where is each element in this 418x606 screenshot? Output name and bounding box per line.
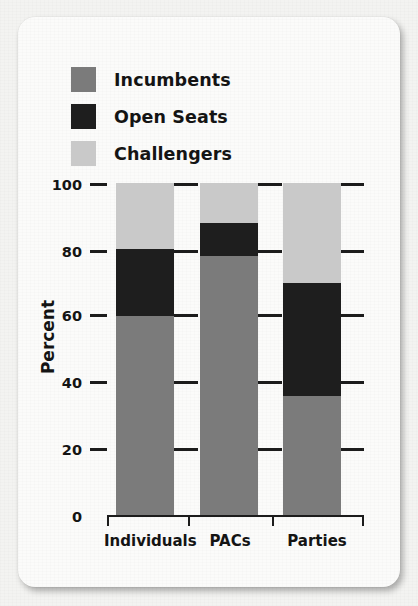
y-tick-label-20: 20 — [34, 442, 82, 458]
bar-parties[interactable] — [283, 183, 341, 515]
gridline-100-right — [341, 183, 364, 186]
x-tick-1 — [188, 515, 190, 526]
y-tick-mark-100 — [90, 183, 107, 186]
chart-card: Incumbents Open Seats Challengers Percen… — [18, 17, 400, 587]
x-axis-label-parties: Parties — [272, 532, 362, 550]
chart-card-surface: Incumbents Open Seats Challengers Percen… — [18, 17, 400, 587]
gridline-100-gap2 — [258, 183, 282, 186]
gridline-80-gap2 — [258, 250, 282, 253]
y-tick-label-60: 60 — [34, 308, 82, 324]
gridline-60-gap2 — [258, 314, 282, 317]
y-tick-label-80: 80 — [34, 244, 82, 260]
chart-page: Incumbents Open Seats Challengers Percen… — [0, 0, 418, 606]
x-tick-left — [107, 515, 109, 526]
bar-individuals-segment-incumbents[interactable] — [116, 316, 174, 515]
gridline-20-right — [341, 448, 364, 451]
gridline-80-right — [341, 250, 364, 253]
plot-area: Percent 100 80 60 40 20 0 — [18, 17, 400, 587]
y-tick-mark-20 — [90, 448, 107, 451]
x-tick-right — [362, 515, 364, 526]
bar-individuals[interactable] — [116, 183, 174, 515]
bar-individuals-segment-challengers[interactable] — [116, 183, 174, 249]
gridline-40-right — [341, 381, 364, 384]
gridline-20-gap2 — [258, 448, 282, 451]
bar-pacs-segment-incumbents[interactable] — [200, 256, 258, 515]
bar-parties-segment-incumbents[interactable] — [283, 396, 341, 515]
bar-pacs-segment-challengers[interactable] — [200, 183, 258, 223]
gridline-60-right — [341, 314, 364, 317]
bar-individuals-segment-open-seats[interactable] — [116, 249, 174, 316]
x-axis-line — [107, 515, 364, 517]
gridline-20-gap1 — [174, 448, 198, 451]
gridline-80-gap1 — [174, 250, 198, 253]
bar-parties-segment-open-seats[interactable] — [283, 283, 341, 396]
x-axis-label-individuals: Individuals — [104, 532, 188, 550]
x-axis-label-pacs: PACs — [188, 532, 272, 550]
gridline-40-gap2 — [258, 381, 282, 384]
gridline-60-gap1 — [174, 314, 198, 317]
y-tick-label-0: 0 — [34, 509, 82, 525]
bar-parties-segment-challengers[interactable] — [283, 183, 341, 283]
y-tick-label-100: 100 — [34, 177, 82, 193]
gridline-100-gap1 — [174, 183, 198, 186]
bar-pacs[interactable] — [200, 183, 258, 515]
y-tick-label-40: 40 — [34, 375, 82, 391]
y-tick-mark-40 — [90, 381, 107, 384]
y-tick-mark-60 — [90, 314, 107, 317]
bar-pacs-segment-open-seats[interactable] — [200, 223, 258, 256]
gridline-40-gap1 — [174, 381, 198, 384]
y-tick-mark-80 — [90, 250, 107, 253]
x-tick-2 — [272, 515, 274, 526]
